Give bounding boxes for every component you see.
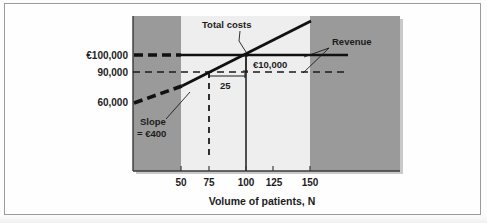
y-tick-label-90000: 90,000 [97,67,128,78]
y-axis-labels: €100,000 90,000 60,000 [86,50,128,108]
x-axis-title: Volume of patients, N [209,195,316,207]
left-dark-band [133,16,181,171]
x-tick-label-50: 50 [175,177,187,188]
gap-25-label: 25 [220,80,231,91]
chart-canvas: €100,000 90,000 60,000 50 75 100 125 150… [0,0,487,223]
revenue-label: Revenue [332,36,372,47]
x-tick-label-75: 75 [203,177,215,188]
plot-drop-shadow [400,19,403,174]
slope-label-line2: = €400 [137,128,166,139]
x-tick-label-150: 150 [302,177,319,188]
x-axis-labels: 50 75 100 125 150 [175,177,318,188]
total-costs-label: Total costs [202,19,251,30]
gap-10000-label: €10,000 [253,59,287,70]
figure-page: €100,000 90,000 60,000 50 75 100 125 150… [0,0,487,223]
slope-label-line1: Slope [140,116,166,127]
x-tick-label-100: 100 [238,177,255,188]
x-tick-label-125: 125 [266,177,283,188]
y-tick-label-100000: €100,000 [86,50,128,61]
y-tick-label-60000: 60,000 [97,97,128,108]
